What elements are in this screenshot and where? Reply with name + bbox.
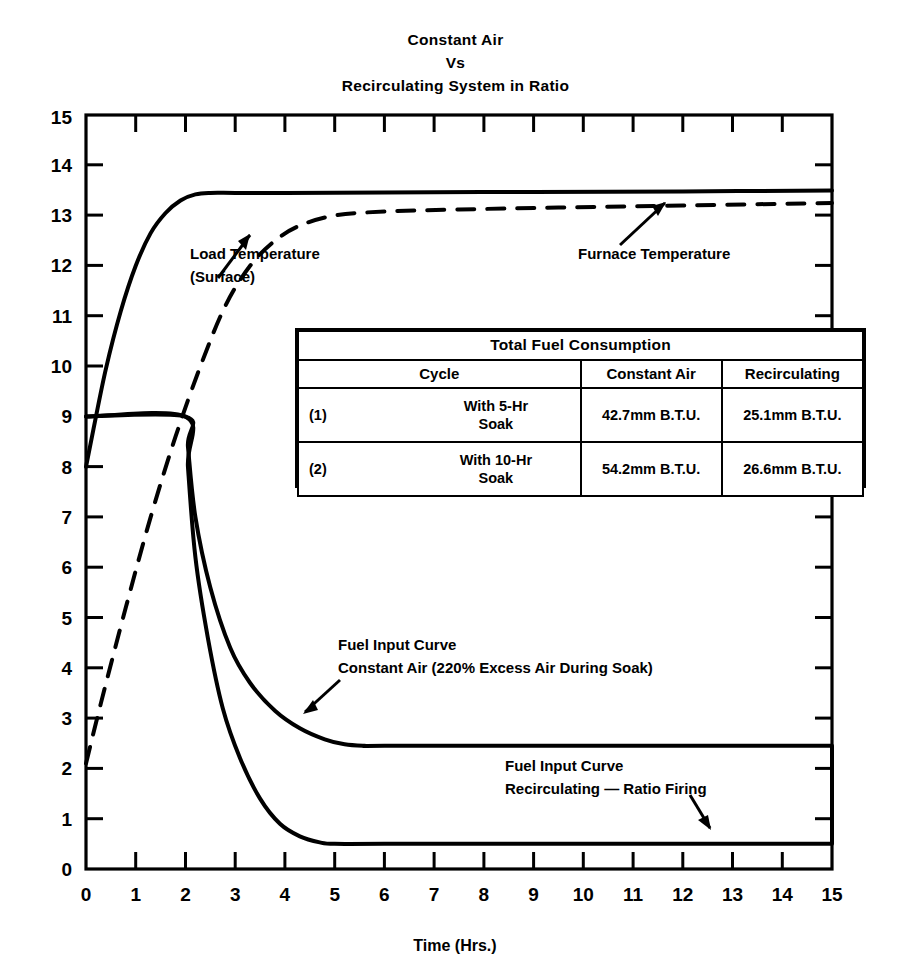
table-row-1-cycle-line-1: With 5-Hr — [464, 398, 528, 414]
y-tick-3: 3 — [61, 708, 72, 729]
x-tick-2: 2 — [180, 884, 191, 905]
annotation-fuel-recirc-line-2: Recirculating — Ratio Firing — [505, 780, 707, 797]
table-row-2-index: (2) — [298, 442, 439, 496]
table-header-cycle: Cycle — [298, 360, 581, 388]
x-tick-3: 3 — [230, 884, 241, 905]
y-tick-12: 12 — [51, 255, 72, 276]
table-header-row: Cycle Constant Air Recirculating — [298, 360, 863, 388]
table-title-row: Total Fuel Consumption — [298, 331, 863, 360]
table-title: Total Fuel Consumption — [298, 331, 863, 360]
x-axis-title: Time (Hrs.) — [413, 937, 496, 954]
y-tick-9: 9 — [61, 406, 72, 427]
y-tick-7: 7 — [61, 507, 72, 528]
annotation-load-temperature-line-2: (Surface) — [190, 268, 255, 285]
data-series-layer — [86, 190, 832, 844]
annotation-fuel-recirc-line-1: Fuel Input Curve — [505, 757, 623, 774]
annotation-fuel-constant-line-1: Fuel Input Curve — [338, 636, 456, 653]
annotation-load-temperature-line-1: Load Temperature — [190, 245, 320, 262]
x-tick-8: 8 — [479, 884, 490, 905]
table-row-2-cycle: With 10-Hr Soak — [439, 442, 580, 496]
y-tick-5: 5 — [61, 608, 72, 629]
y-tick-15: 15 — [51, 107, 73, 128]
y-tick-8: 8 — [61, 457, 72, 478]
x-tick-4: 4 — [280, 884, 291, 905]
annotation-furnace-temperature-line-1: Furnace Temperature — [578, 245, 730, 262]
y-axis-tick-labels: 0 1 2 3 4 5 6 7 8 9 10 11 12 13 14 15 — [51, 107, 73, 880]
fuel-consumption-table: Total Fuel Consumption Cycle Constant Ai… — [297, 330, 864, 497]
figure-root: Constant Air Vs Recirculating System in … — [0, 0, 911, 979]
table-row: (2) With 10-Hr Soak 54.2mm B.T.U. 26.6mm… — [298, 442, 863, 496]
table-row-2-cycle-line-1: With 10-Hr — [460, 452, 532, 468]
x-tick-12: 12 — [672, 884, 693, 905]
annotation-fuel-input-constant-air: Fuel Input Curve Constant Air (220% Exce… — [303, 636, 653, 714]
table-row: (1) With 5-Hr Soak 42.7mm B.T.U. 25.1mm … — [298, 388, 863, 442]
table-row-1-cycle-line-2: Soak — [479, 416, 514, 432]
annotation-fuel-input-recirculating: Fuel Input Curve Recirculating — Ratio F… — [505, 757, 711, 830]
x-tick-14: 14 — [772, 884, 794, 905]
table-header-recirculating: Recirculating — [722, 360, 863, 388]
y-tick-1: 1 — [61, 809, 72, 830]
table-header-constant-air: Constant Air — [581, 360, 722, 388]
y-tick-11: 11 — [52, 306, 73, 327]
annotation-load-temperature: Load Temperature (Surface) — [190, 234, 320, 285]
table-row-1-constant-air: 42.7mm B.T.U. — [581, 388, 722, 442]
x-axis-tick-labels: 0 1 2 3 4 5 6 7 8 9 10 11 12 13 14 15 — [81, 884, 843, 905]
y-tick-0: 0 — [61, 859, 72, 880]
y-tick-13: 13 — [51, 205, 72, 226]
y-tick-10: 10 — [51, 356, 72, 377]
y-tick-6: 6 — [61, 557, 72, 578]
y-tick-14: 14 — [51, 155, 73, 176]
x-tick-15: 15 — [821, 884, 843, 905]
y-tick-4: 4 — [61, 658, 72, 679]
x-tick-5: 5 — [329, 884, 340, 905]
x-tick-13: 13 — [722, 884, 743, 905]
x-tick-11: 11 — [623, 884, 644, 905]
table-row-2-constant-air: 54.2mm B.T.U. — [581, 442, 722, 496]
table-row-1-cycle: With 5-Hr Soak — [439, 388, 580, 442]
annotation-furnace-temperature: Furnace Temperature — [578, 202, 730, 262]
x-tick-0: 0 — [81, 884, 92, 905]
x-tick-7: 7 — [429, 884, 440, 905]
table-row-2-recirculating: 26.6mm B.T.U. — [722, 442, 863, 496]
annotation-fuel-constant-line-2: Constant Air (220% Excess Air During Soa… — [338, 659, 653, 676]
y-tick-2: 2 — [61, 758, 72, 779]
x-tick-6: 6 — [379, 884, 390, 905]
x-axis-ticks — [136, 852, 783, 869]
x-axis-ticks-top — [136, 115, 783, 132]
table-row-1-index: (1) — [298, 388, 439, 442]
x-tick-9: 9 — [528, 884, 539, 905]
table-row-2-cycle-line-2: Soak — [479, 470, 514, 486]
table-row-1-recirculating: 25.1mm B.T.U. — [722, 388, 863, 442]
x-tick-10: 10 — [573, 884, 594, 905]
x-tick-1: 1 — [130, 884, 141, 905]
